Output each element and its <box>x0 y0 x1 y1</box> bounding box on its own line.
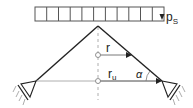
radius-ru-dimension: ru <box>96 67 162 84</box>
right-pinned-support <box>162 81 185 105</box>
left-member <box>36 26 98 81</box>
left-pinned-support <box>13 81 36 105</box>
angle-alpha: α <box>136 68 150 81</box>
uniform-load <box>35 7 165 21</box>
radius-ru-label: ru <box>108 67 116 82</box>
structural-diagram: pS r ru α <box>0 0 193 108</box>
radius-r-label: r <box>106 41 110 55</box>
angle-alpha-label: α <box>136 68 143 80</box>
load-label: pS <box>166 10 178 26</box>
